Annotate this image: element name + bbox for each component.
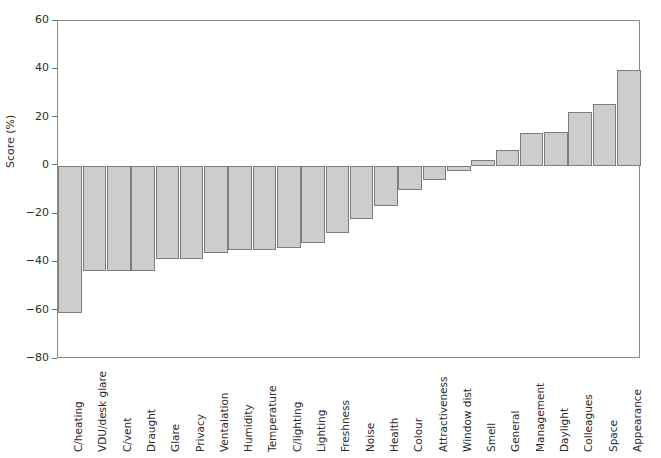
bar — [180, 166, 204, 259]
bar — [131, 166, 155, 271]
x-axis-label: Management — [535, 383, 546, 452]
x-axis-label: Health — [389, 418, 400, 452]
x-axis-label: Colour — [413, 418, 424, 452]
bar — [496, 150, 520, 166]
bar — [228, 166, 252, 251]
bar — [544, 132, 568, 166]
x-axis-label: Glare — [170, 424, 181, 452]
x-axis-label: Smell — [486, 423, 497, 452]
x-axis-label: Daylight — [559, 408, 570, 452]
bar — [301, 166, 325, 243]
y-axis: Score (%) 6040200−20−40−60−80 — [0, 0, 57, 458]
chart-figure: Score (%) 6040200−20−40−60−80 C/heatingV… — [0, 0, 661, 458]
bar — [398, 166, 422, 190]
y-tick-label: −20 — [26, 205, 49, 221]
bar — [520, 133, 544, 166]
bar — [447, 166, 471, 171]
x-axis-label: Humidity — [243, 404, 254, 452]
x-axis-label: C/vent — [122, 418, 133, 452]
bar — [253, 166, 277, 251]
x-axis-label: General — [510, 411, 521, 452]
bar — [204, 166, 228, 253]
bar — [83, 166, 107, 271]
x-axis-label: Lighting — [316, 410, 327, 452]
x-axis-label: VDU/desk glare — [97, 371, 108, 452]
bar — [277, 166, 301, 248]
x-axis-label: Privacy — [195, 414, 206, 452]
y-tick-label: −80 — [26, 350, 49, 366]
x-axis-labels: C/heatingVDU/desk glareC/ventDraughtGlar… — [57, 358, 640, 458]
y-tick-label: 20 — [35, 109, 49, 125]
bar — [326, 166, 350, 234]
x-axis-label: Space — [608, 420, 619, 452]
y-tick-label: −40 — [26, 253, 49, 269]
x-axis-label: C/heating — [73, 401, 84, 452]
x-axis-label: Noise — [365, 423, 376, 452]
x-axis-label: Colleagues — [583, 394, 594, 452]
y-tick-label: 0 — [42, 157, 49, 173]
y-tick-label: −60 — [26, 302, 49, 318]
x-axis-label: Freshness — [340, 400, 351, 452]
y-tick-label: 60 — [35, 12, 49, 28]
bar — [374, 166, 398, 206]
bar — [593, 104, 617, 166]
y-axis-title: Score (%) — [4, 115, 17, 168]
x-axis-label: Window dist — [462, 388, 473, 452]
bar — [350, 166, 374, 219]
bar — [107, 166, 131, 271]
x-axis-label: Appearance — [632, 389, 643, 452]
x-axis-label: C/lighting — [292, 402, 303, 452]
x-axis-label: Ventalation — [219, 393, 230, 453]
bar — [471, 160, 495, 166]
bar — [58, 166, 82, 313]
bar — [423, 166, 447, 180]
bars-layer — [58, 21, 639, 357]
bar — [568, 112, 592, 166]
y-tick-label: 40 — [35, 60, 49, 76]
x-axis-label: Temperature — [267, 385, 278, 452]
x-axis-label: Attractiveness — [438, 376, 449, 452]
bar — [156, 166, 180, 259]
plot-area — [57, 20, 640, 358]
x-axis-label: Draught — [146, 409, 157, 452]
bar — [617, 70, 641, 165]
